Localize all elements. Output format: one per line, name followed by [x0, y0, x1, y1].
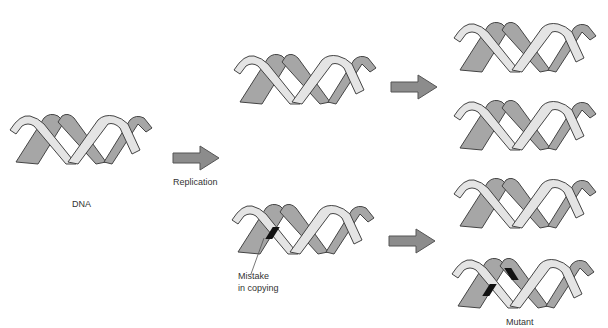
dna-helix-gen2-1: [450, 18, 600, 74]
dna-helix-gen2-3: [450, 174, 600, 230]
replication-arrow-icon: [172, 145, 220, 171]
helix-shape: [448, 254, 598, 310]
dna-helix-gen2-2: [450, 96, 600, 152]
mistake-label-line2: in copying: [238, 282, 279, 294]
replication-label: Replication: [173, 176, 218, 188]
dna-label: DNA: [72, 198, 91, 210]
arrow-icon-bottom: [388, 228, 436, 254]
dna-helix-gen2-4-mutant: [448, 254, 598, 314]
arrow-icon-top: [390, 74, 438, 100]
mistake-label: Mistake in copying: [238, 270, 279, 294]
dna-helix-original: [6, 110, 156, 166]
mistake-label-line1: Mistake: [238, 270, 279, 282]
dna-helix-copy-normal: [230, 50, 380, 106]
mutant-label: Mutant: [506, 316, 534, 328]
